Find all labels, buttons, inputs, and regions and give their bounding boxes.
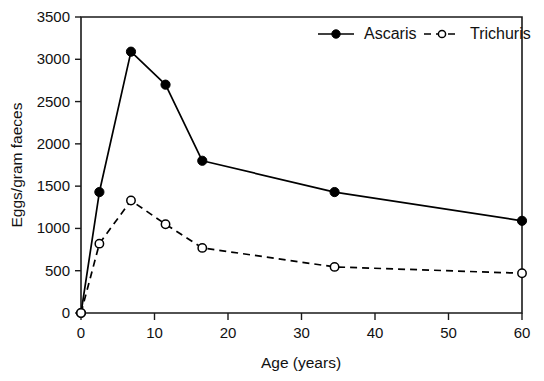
data-point-ascaris: [330, 187, 339, 196]
data-point-trichuris: [127, 196, 135, 204]
x-tick-label: 30: [293, 324, 310, 341]
y-tick-label: 1000: [37, 219, 70, 236]
plot-frame: [81, 17, 522, 313]
data-point-ascaris: [198, 156, 207, 165]
data-point-ascaris: [161, 80, 170, 89]
x-tick-label: 40: [367, 324, 384, 341]
x-axis-title: Age (years): [261, 354, 341, 371]
chart-figure: 0500100015002000250030003500 01020304050…: [0, 0, 544, 381]
y-tick-label: 3500: [37, 8, 70, 25]
legend-marker-trichuris: [438, 30, 445, 37]
x-tick-label: 20: [220, 324, 237, 341]
line-chart-svg: 0500100015002000250030003500 01020304050…: [0, 0, 544, 381]
x-axis-ticks: 0102030405060: [77, 313, 531, 341]
data-point-trichuris: [161, 220, 169, 228]
x-tick-label: 0: [77, 324, 85, 341]
series-line-trichuris: [81, 201, 522, 313]
y-tick-label: 0: [62, 304, 70, 321]
y-tick-label: 2000: [37, 135, 70, 152]
x-tick-label: 10: [146, 324, 163, 341]
legend-label-trichuris: Trichuris: [470, 25, 531, 42]
y-axis-title: Eggs/gram faeces: [8, 102, 25, 227]
data-point-ascaris: [126, 47, 135, 56]
x-tick-label: 50: [440, 324, 457, 341]
y-tick-label: 2500: [37, 93, 70, 110]
y-tick-label: 500: [45, 262, 70, 279]
legend-label-ascaris: Ascaris: [364, 25, 416, 42]
x-tick-label: 60: [514, 324, 531, 341]
y-tick-label: 3000: [37, 50, 70, 67]
data-point-trichuris: [330, 263, 338, 271]
data-point-trichuris: [518, 269, 526, 277]
y-tick-label: 1500: [37, 177, 70, 194]
series-line-ascaris: [81, 52, 522, 313]
chart-legend: AscarisTrichuris: [318, 25, 531, 42]
data-series-group: [76, 47, 526, 318]
data-point-trichuris: [77, 309, 85, 317]
data-point-trichuris: [95, 239, 103, 247]
data-point-ascaris: [95, 187, 104, 196]
legend-marker-ascaris: [332, 30, 340, 38]
y-axis-ticks: 0500100015002000250030003500: [37, 8, 81, 321]
data-point-ascaris: [517, 216, 526, 225]
data-point-trichuris: [198, 244, 206, 252]
